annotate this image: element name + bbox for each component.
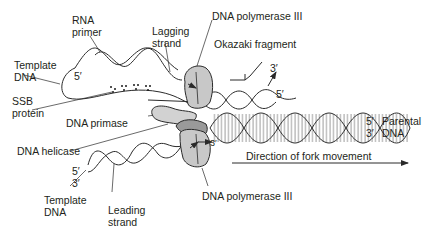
- label-rna-primer: RNA primer: [72, 14, 112, 38]
- end-marker-leading-3: 3′: [210, 137, 217, 149]
- label-dna-helicase: DNA helicase: [17, 145, 80, 157]
- label-line: Template: [14, 59, 64, 71]
- label-template-dna-bottom: Template DNA: [44, 194, 94, 218]
- label-line: strand: [108, 216, 158, 228]
- end-marker-bottom-3: 3′: [72, 177, 80, 189]
- dna-polymerase-iii-bottom-shape: [180, 129, 210, 167]
- end-marker-okazaki-3: 3′: [270, 62, 278, 74]
- label-direction-of-fork-movement: Direction of fork movement: [246, 150, 371, 162]
- label-line: DNA: [14, 71, 64, 83]
- end-marker-top-template-5: 5′: [74, 70, 82, 82]
- label-leading-strand: Leading strand: [108, 204, 158, 228]
- label-parental-dna: Parental DNA: [382, 115, 430, 139]
- end-marker-okazaki-5: 5′: [276, 88, 284, 100]
- end-marker-parental-3: 3′: [366, 127, 374, 139]
- label-line: DNA: [382, 127, 430, 139]
- replisome-complex: [152, 66, 213, 167]
- label-line: primer: [72, 26, 112, 38]
- label-lagging-strand: Lagging strand: [152, 25, 202, 49]
- okazaki-fragment-helix: [200, 62, 296, 109]
- parental-dna-helix: [210, 113, 410, 143]
- label-line: DNA: [44, 206, 94, 218]
- label-line: RNA: [72, 14, 112, 26]
- end-marker-parental-5: 5′: [366, 115, 374, 127]
- label-ssb-protein: SSB protein: [12, 95, 62, 119]
- label-dna-polymerase-iii-bottom: DNA polymerase III: [202, 190, 292, 202]
- label-line: Template: [44, 194, 94, 206]
- label-line: Leading: [108, 204, 158, 216]
- dna-polymerase-iii-top-shape: [185, 66, 213, 108]
- label-line: Lagging: [152, 25, 202, 37]
- label-template-dna-top: Template DNA: [14, 59, 64, 83]
- label-line: strand: [152, 37, 202, 49]
- label-okazaki-fragment: Okazaki fragment: [214, 38, 296, 50]
- end-marker-bottom-5: 5′: [72, 165, 80, 177]
- leading-strand-helix: [88, 138, 195, 172]
- ssb-protein-dots: [110, 84, 151, 93]
- label-line: protein: [12, 107, 62, 119]
- label-line: SSB: [12, 95, 62, 107]
- label-dna-polymerase-iii-top: DNA polymerase III: [212, 10, 302, 22]
- lagging-strand-helix: [62, 48, 200, 104]
- label-dna-primase: DNA primase: [66, 117, 128, 129]
- label-line: Parental: [382, 115, 430, 127]
